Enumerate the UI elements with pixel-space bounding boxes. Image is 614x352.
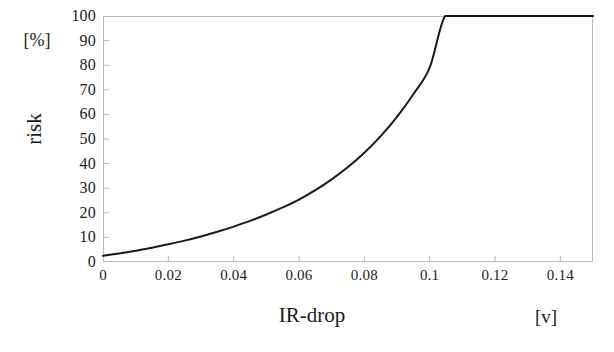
y-axis-tick-label: 70 [54,82,96,98]
x-axis-tick-labels: 00.020.040.060.080.10.120.14 [0,266,614,292]
x-axis-tick-label: 0.02 [138,266,198,284]
y-axis-tick-label: 20 [54,205,96,221]
x-axis-tick-label: 0.1 [400,266,460,284]
x-axis-tick-label: 0.14 [530,266,590,284]
x-axis-tick-label: 0.04 [204,266,264,284]
y-axis-tick-label: 10 [54,229,96,245]
x-axis-tick-label: 0 [73,266,133,284]
y-axis-title: risk [23,89,45,169]
y-axis-tick-labels: 0102030405060708090100 [50,0,96,352]
y-axis-tick-label: 30 [54,180,96,196]
risk-curve-line [103,16,593,256]
x-axis-tick-label: 0.06 [269,266,329,284]
risk-vs-ir-drop-chart: [%] risk 0102030405060708090100 00.020.0… [0,0,614,352]
x-axis-title: IR-drop [232,303,392,327]
x-axis-unit-label: [v] [516,306,576,328]
axis-tick-marks [103,41,560,262]
y-axis-tick-label: 90 [54,33,96,49]
y-axis-tick-label: 80 [54,57,96,73]
y-axis-tick-label: 100 [54,8,96,24]
x-axis-tick-label: 0.08 [334,266,394,284]
y-axis-tick-label: 50 [54,131,96,147]
plot-area [103,16,593,262]
x-axis-tick-label: 0.12 [465,266,525,284]
y-axis-tick-label: 60 [54,106,96,122]
y-axis-tick-label: 40 [54,156,96,172]
